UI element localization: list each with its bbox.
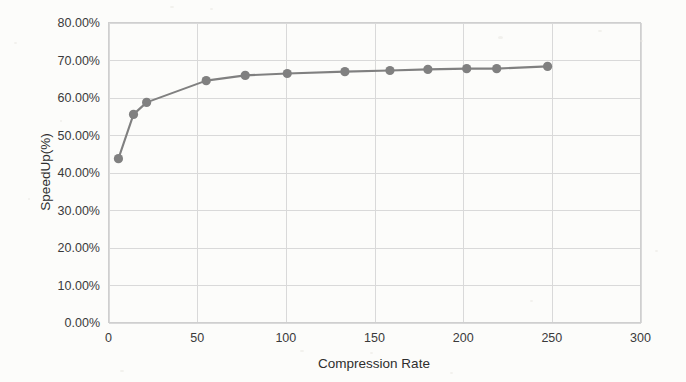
data-point-marker <box>202 76 211 85</box>
scan-speckle <box>170 6 174 8</box>
y-axis-tick-label: 80.00% <box>58 16 100 30</box>
y-axis-tick-label: 0.00% <box>65 316 100 330</box>
data-point-marker <box>114 154 123 163</box>
x-axis-title: Compression Rate <box>318 356 430 371</box>
data-point-marker <box>283 69 292 78</box>
data-point-marker <box>543 62 552 71</box>
scan-speckle <box>530 300 533 302</box>
scan-speckle <box>498 36 503 39</box>
data-point-marker <box>492 64 501 73</box>
chart-figure: 0.00%10.00%20.00%30.00%40.00%50.00%60.00… <box>0 0 686 382</box>
x-axis-tick-label: 200 <box>453 331 474 345</box>
data-point-marker <box>385 66 394 75</box>
series-line-speedup <box>118 66 547 158</box>
x-axis-tick-label: 150 <box>364 331 385 345</box>
y-axis-tick-labels: 0.00%10.00%20.00%30.00%40.00%50.00%60.00… <box>58 16 100 330</box>
scan-speckle <box>598 30 602 32</box>
x-axis-tick-label: 0 <box>105 331 112 345</box>
y-axis-tick-label: 40.00% <box>58 166 100 180</box>
x-axis-tick-label: 100 <box>275 331 296 345</box>
line-chart-canvas: 0.00%10.00%20.00%30.00%40.00%50.00%60.00… <box>0 0 686 382</box>
y-axis-tick-label: 10.00% <box>58 279 100 293</box>
scan-speckle <box>28 198 30 200</box>
scan-speckle <box>450 372 453 374</box>
data-point-marker <box>129 110 138 119</box>
data-point-marker <box>142 98 151 107</box>
data-series-group <box>114 62 552 163</box>
y-axis-tick-label: 50.00% <box>58 129 100 143</box>
data-point-marker <box>462 64 471 73</box>
scan-speckle <box>655 250 658 252</box>
scan-speckle <box>14 42 17 44</box>
data-point-marker <box>340 67 349 76</box>
scan-speckle <box>210 8 213 10</box>
scan-speckle <box>300 350 304 352</box>
y-axis-tick-label: 60.00% <box>58 91 100 105</box>
x-axis-tick-label: 50 <box>190 331 204 345</box>
data-point-marker <box>423 65 432 74</box>
plot-frame <box>109 23 641 323</box>
gridlines-group <box>109 23 642 324</box>
x-axis-tick-label: 300 <box>630 331 651 345</box>
y-axis-tick-label: 30.00% <box>58 204 100 218</box>
y-axis-tick-label: 70.00% <box>58 54 100 68</box>
data-point-marker <box>241 71 250 80</box>
y-axis-title: SpeedUp(%) <box>38 133 53 210</box>
x-axis-tick-labels: 050100150200250300 <box>105 331 651 345</box>
y-axis-tick-label: 20.00% <box>58 241 100 255</box>
scan-speckle <box>60 120 62 122</box>
scan-speckle <box>640 40 643 42</box>
scan-speckle <box>120 370 124 372</box>
scan-speckle <box>370 352 373 354</box>
x-axis-tick-label: 250 <box>541 331 562 345</box>
